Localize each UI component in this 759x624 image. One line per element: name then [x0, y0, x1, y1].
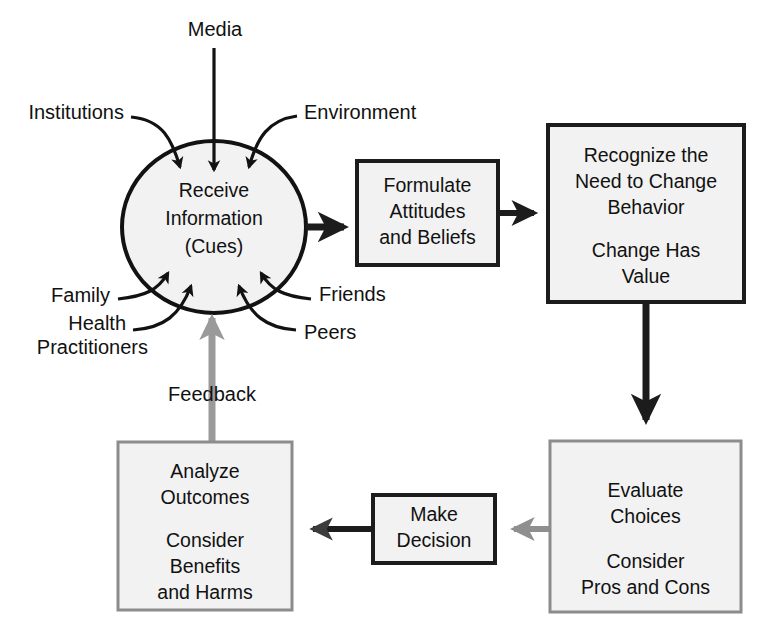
recognize-line-5: Value: [622, 265, 670, 287]
formulate-line-3: and Beliefs: [379, 226, 476, 248]
analyze-line-4: Benefits: [170, 555, 241, 577]
recognize-line-2: Need to Change: [575, 170, 717, 192]
evaluate-line-4: Pros and Cons: [581, 576, 710, 598]
cue-label-health: Health: [68, 312, 126, 334]
cue-label-media: Media: [188, 18, 243, 40]
diagram-canvas: Receive Information (Cues): [0, 0, 759, 624]
cues-line-1: Receive: [179, 179, 249, 201]
cue-label-family: Family: [51, 284, 110, 306]
box-analyze-outcomes[interactable]: Analyze Outcomes Consider Benefits and H…: [118, 442, 292, 610]
box-evaluate-choices[interactable]: Evaluate Choices Consider Pros and Cons: [550, 441, 741, 612]
analyze-line-3: Consider: [166, 529, 245, 551]
evaluate-line-3: Consider: [606, 550, 685, 572]
recognize-line-1: Recognize the: [584, 144, 709, 166]
recognize-line-3: Behavior: [608, 196, 685, 218]
evaluate-line-1: Evaluate: [608, 479, 684, 501]
cue-label-environment: Environment: [304, 101, 417, 123]
cue-label-institutions: Institutions: [28, 101, 124, 123]
decision-line-1: Make: [410, 503, 458, 525]
formulate-line-2: Attitudes: [390, 200, 466, 222]
flowchart-svg: Receive Information (Cues): [0, 0, 759, 624]
cues-line-2: Information: [165, 207, 263, 229]
analyze-line-2: Outcomes: [161, 486, 250, 508]
analyze-line-1: Analyze: [170, 460, 239, 482]
evaluate-line-2: Choices: [610, 505, 681, 527]
decision-line-2: Decision: [397, 529, 472, 551]
analyze-line-5: and Harms: [157, 581, 253, 603]
cue-label-practitioners: Practitioners: [37, 336, 148, 358]
recognize-line-4: Change Has: [592, 239, 701, 261]
box-make-decision[interactable]: Make Decision: [373, 495, 495, 563]
box-formulate-attitudes-beliefs[interactable]: Formulate Attitudes and Beliefs: [357, 161, 498, 265]
cue-label-peers: Peers: [304, 321, 356, 343]
cues-line-3: (Cues): [185, 235, 244, 257]
feedback-label: Feedback: [168, 383, 257, 405]
cue-label-friends: Friends: [319, 283, 386, 305]
formulate-line-1: Formulate: [384, 174, 472, 196]
box-recognize-need-to-change[interactable]: Recognize the Need to Change Behavior Ch…: [548, 125, 744, 302]
